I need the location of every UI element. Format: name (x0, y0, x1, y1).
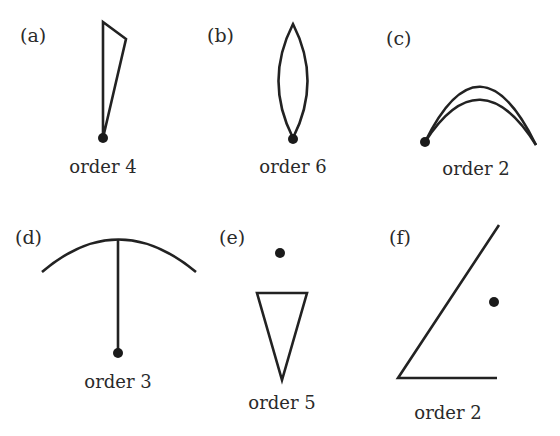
figure-caption-b: order 6 (259, 156, 326, 177)
figure-caption-a: order 4 (69, 156, 136, 177)
figure-a: (a) order 4 (20, 22, 137, 177)
figure-e: (e) order 5 (219, 226, 316, 413)
figure-label-f: (f) (389, 226, 411, 248)
inverted-triangle-shape (257, 293, 307, 380)
outer-arc (425, 87, 536, 145)
rotation-center-dot (113, 348, 123, 358)
figure-f: (f) order 2 (389, 225, 499, 423)
figure-caption-e: order 5 (248, 392, 315, 413)
rotation-center-dot (489, 297, 499, 307)
lens-shape (279, 24, 308, 138)
figure-label-a: (a) (20, 24, 46, 46)
figure-label-b: (b) (207, 24, 234, 46)
rotation-order-diagram: (a) order 4 (b) order 6 (c) order 2 (d) … (0, 0, 560, 436)
thin-triangle-shape (103, 22, 126, 138)
rotation-center-dot (420, 137, 430, 147)
figure-caption-f: order 2 (414, 402, 481, 423)
rotation-center-dot (98, 133, 108, 143)
angle-shape (398, 225, 499, 378)
inner-arc (425, 100, 536, 145)
rotation-center-dot (275, 248, 285, 258)
figure-label-e: (e) (219, 226, 245, 248)
figure-b: (b) order 6 (207, 24, 327, 177)
figure-caption-c: order 2 (442, 158, 509, 179)
figure-c: (c) order 2 (386, 27, 536, 179)
figure-caption-d: order 3 (84, 371, 151, 392)
rotation-center-dot (288, 134, 298, 144)
figure-d: (d) order 3 (15, 226, 196, 392)
figure-label-c: (c) (386, 27, 411, 49)
figure-label-d: (d) (15, 226, 42, 248)
